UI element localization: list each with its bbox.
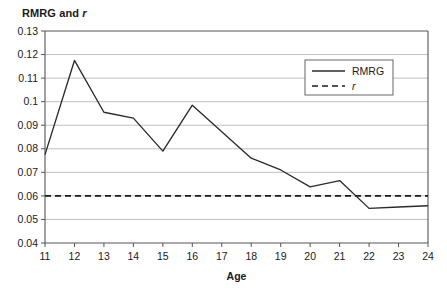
chart-container: RMRG and r 0.040.050.060.070.080.090.10.… (0, 0, 447, 294)
x-axis-tick-label: 15 (157, 250, 169, 262)
x-axis-tick-label: 20 (304, 250, 316, 262)
x-axis-tick-label: 12 (69, 250, 81, 262)
y-axis-tick-labels: 0.040.050.060.070.080.090.10.110.120.13 (18, 25, 39, 249)
x-axis-tick-label: 13 (98, 250, 110, 262)
y-axis-tick-label: 0.09 (18, 119, 39, 131)
x-axis-tick-label: 22 (363, 250, 375, 262)
legend-label-rmrg: RMRG (352, 65, 384, 77)
x-axis-tick-label: 14 (128, 250, 140, 262)
chart-legend: RMRGr (305, 60, 393, 95)
x-axis-tick-label: 21 (334, 250, 346, 262)
x-axis-tick-label: 16 (186, 250, 198, 262)
y-axis-tick-label: 0.07 (18, 166, 39, 178)
x-axis-tick-label: 18 (245, 250, 257, 262)
x-axis-title: Age (227, 270, 247, 282)
x-axis-tick-labels: 1112131415161718192021222324 (40, 250, 434, 262)
x-axis-tick-label: 23 (393, 250, 405, 262)
y-axis-tick-label: 0.05 (18, 213, 39, 225)
chart-plot-area: 0.040.050.060.070.080.090.10.110.120.13 … (0, 0, 447, 294)
y-axis-tick-label: 0.12 (18, 48, 39, 60)
x-axis-tick-label: 11 (40, 250, 51, 262)
y-axis-tick-label: 0.1 (23, 95, 38, 107)
x-axis-tick-label: 24 (422, 250, 434, 262)
y-axis-tick-label: 0.13 (18, 25, 39, 37)
y-axis-tick-label: 0.11 (18, 72, 38, 84)
x-axis-tick-label: 17 (216, 250, 228, 262)
x-axis-tick-label: 19 (275, 250, 287, 262)
legend-label-r: r (352, 80, 356, 92)
y-axis-tick-label: 0.06 (18, 190, 39, 202)
y-axis-tick-label: 0.08 (18, 142, 39, 154)
x-axis-ticks (45, 243, 428, 247)
y-axis-tick-label: 0.04 (18, 237, 39, 249)
y-axis-ticks (41, 31, 45, 243)
